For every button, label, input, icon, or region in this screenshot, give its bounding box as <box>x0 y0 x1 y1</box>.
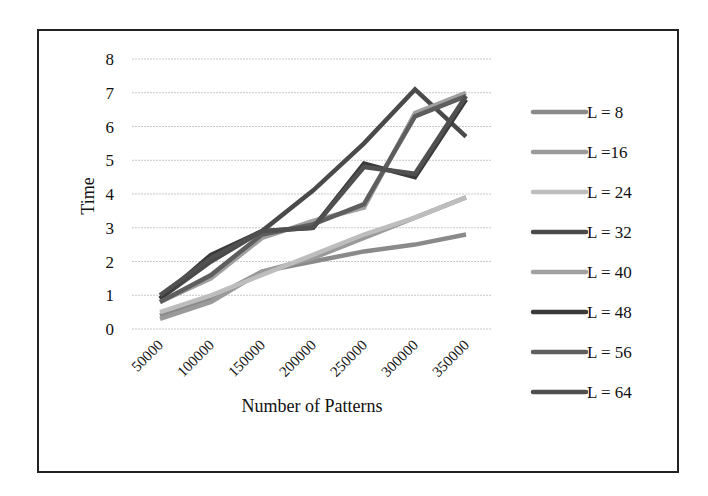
legend-label: L = 64 <box>587 383 632 402</box>
legend-item: L = 8 <box>533 103 623 122</box>
legend-label: L = 24 <box>587 183 632 202</box>
x-tick-label: 300000 <box>378 337 421 380</box>
y-tick-label: 8 <box>106 50 115 69</box>
y-tick-label: 7 <box>106 84 115 103</box>
legend-item: L = 56 <box>533 343 632 362</box>
x-tick-label: 350000 <box>429 337 472 380</box>
y-tick-label: 4 <box>106 185 115 204</box>
legend-label: L = 48 <box>587 303 632 322</box>
legend-item: L = 32 <box>533 223 632 242</box>
legend-label: L = 56 <box>587 343 632 362</box>
y-tick-label: 6 <box>106 118 115 137</box>
series-line <box>160 100 466 299</box>
x-tick-label: 200000 <box>276 337 319 380</box>
series-line <box>160 93 466 302</box>
legend-label: L =16 <box>587 143 628 162</box>
x-tick-label: 50000 <box>128 337 166 375</box>
y-axis-ticks: 012345678 <box>106 50 115 339</box>
y-axis-title: Time <box>78 177 98 214</box>
x-tick-label: 100000 <box>174 337 217 380</box>
legend-label: L = 32 <box>587 223 632 242</box>
y-tick-label: 1 <box>106 286 115 305</box>
legend-item: L =16 <box>533 143 628 162</box>
legend-item: L = 40 <box>533 263 632 282</box>
legend: L = 8L =16L = 24L = 32L = 40L = 48L = 56… <box>533 103 632 402</box>
legend-item: L = 48 <box>533 303 632 322</box>
series-lines <box>160 89 466 319</box>
legend-label: L = 8 <box>587 103 623 122</box>
x-axis-title: Number of Patterns <box>242 396 383 416</box>
x-tick-label: 250000 <box>327 337 370 380</box>
y-tick-label: 2 <box>106 253 115 272</box>
line-chart: 012345678 500001000001500002000002500003… <box>0 0 708 496</box>
legend-item: L = 24 <box>533 183 632 202</box>
x-tick-label: 150000 <box>225 337 268 380</box>
y-tick-label: 0 <box>106 320 115 339</box>
legend-label: L = 40 <box>587 263 632 282</box>
y-tick-label: 5 <box>106 151 115 170</box>
y-tick-label: 3 <box>106 219 115 238</box>
x-axis-ticks: 5000010000015000020000025000030000035000… <box>128 337 472 380</box>
legend-item: L = 64 <box>533 383 632 402</box>
